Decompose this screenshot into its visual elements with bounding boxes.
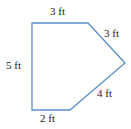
label-upper-right-side: 3 ft	[104, 28, 119, 39]
label-left-side: 5 ft	[6, 60, 21, 71]
label-top-side: 3 ft	[50, 6, 65, 17]
label-bottom-side: 2 ft	[40, 113, 55, 124]
label-lower-right-side: 4 ft	[97, 88, 112, 99]
